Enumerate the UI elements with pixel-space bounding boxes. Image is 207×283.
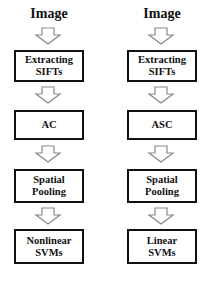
step-label: Nonlinear bbox=[27, 235, 72, 247]
step-label: Spatial bbox=[145, 174, 179, 186]
down-arrow-icon bbox=[147, 145, 175, 163]
asc-box: ASC bbox=[127, 110, 197, 140]
extract-sifts-box: ExtractingSIFTs bbox=[14, 50, 84, 82]
step-label: SIFTs bbox=[25, 66, 73, 78]
step-label: SIFTs bbox=[138, 66, 186, 78]
step-label: Spatial bbox=[32, 174, 66, 186]
down-arrow-icon bbox=[34, 207, 62, 225]
spatial-pooling-box: SpatialPooling bbox=[14, 169, 84, 203]
step-label: SVMs bbox=[147, 247, 177, 259]
right-pipeline: Image ExtractingSIFTs ASC SpatialPooling… bbox=[126, 0, 198, 283]
ac-box: AC bbox=[14, 110, 84, 140]
down-arrow-icon bbox=[147, 27, 175, 45]
input-image-label: Image bbox=[126, 6, 198, 22]
step-label: Extracting bbox=[25, 54, 73, 66]
down-arrow-icon bbox=[34, 86, 62, 104]
left-pipeline: Image ExtractingSIFTs AC SpatialPooling … bbox=[13, 0, 85, 283]
down-arrow-icon bbox=[147, 86, 175, 104]
down-arrow-icon bbox=[34, 27, 62, 45]
step-label: ASC bbox=[151, 119, 172, 131]
spatial-pooling-box: SpatialPooling bbox=[127, 169, 197, 203]
step-label: Pooling bbox=[145, 186, 179, 198]
input-image-label: Image bbox=[13, 6, 85, 22]
linear-svms-box: LinearSVMs bbox=[127, 229, 197, 264]
step-label: Linear bbox=[147, 235, 177, 247]
down-arrow-icon bbox=[34, 145, 62, 163]
step-label: Extracting bbox=[138, 54, 186, 66]
step-label: SVMs bbox=[27, 247, 72, 259]
nonlinear-svms-box: NonlinearSVMs bbox=[14, 229, 84, 264]
down-arrow-icon bbox=[147, 207, 175, 225]
step-label: Pooling bbox=[32, 186, 66, 198]
step-label: AC bbox=[41, 119, 56, 131]
extract-sifts-box: ExtractingSIFTs bbox=[127, 50, 197, 82]
